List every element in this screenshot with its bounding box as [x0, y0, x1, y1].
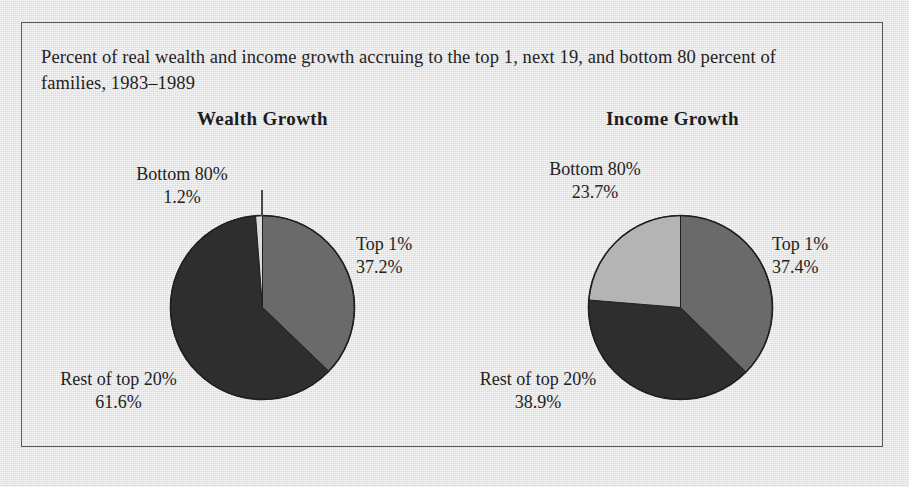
chart-title-wealth: Wealth Growth [150, 108, 375, 130]
pie-label-value: 37.4% [772, 256, 909, 279]
pie-label-income-top1: Top 1% 37.4% [772, 233, 909, 279]
pie-label-value: 1.2% [112, 186, 252, 209]
figure-caption: Percent of real wealth and income growth… [41, 44, 831, 96]
pie-label-name: Top 1% [772, 234, 828, 254]
pie-label-wealth-bottom80: Bottom 80% 1.2% [112, 163, 252, 209]
bottom80-leader-line [261, 190, 263, 216]
pie-label-name: Rest of top 20% [480, 369, 597, 389]
pie-label-income-bottom80: Bottom 80% 23.7% [520, 158, 670, 204]
pie-label-value: 38.9% [443, 391, 633, 414]
pie-label-income-rest: Rest of top 20% 38.9% [443, 368, 633, 414]
pie-label-wealth-top1: Top 1% 37.2% [356, 233, 506, 279]
pie-label-value: 23.7% [520, 181, 670, 204]
pie-label-name: Bottom 80% [549, 159, 641, 179]
pie-slice [589, 216, 681, 308]
chart-title-income: Income Growth [560, 108, 785, 130]
pie-label-value: 61.6% [26, 391, 211, 414]
pie-label-name: Bottom 80% [136, 164, 228, 184]
pie-label-wealth-rest: Rest of top 20% 61.6% [26, 368, 211, 414]
pie-label-name: Rest of top 20% [60, 369, 177, 389]
pie-label-name: Top 1% [356, 234, 412, 254]
pie-label-value: 37.2% [356, 256, 506, 279]
